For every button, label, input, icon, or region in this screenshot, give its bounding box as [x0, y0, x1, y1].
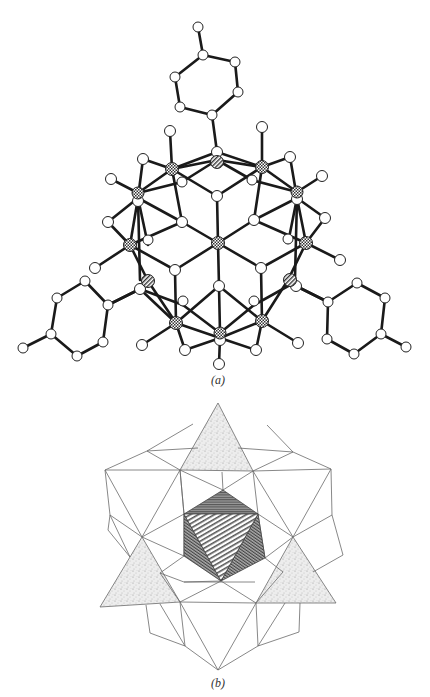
- caption-panel-b: (b): [198, 676, 238, 691]
- molecular-structure-figure: [0, 0, 430, 697]
- central-octahedron: [184, 490, 265, 581]
- atoms: [18, 22, 411, 370]
- caption-panel-a: (a): [198, 373, 238, 388]
- panel-b-polyhedral: [100, 403, 343, 670]
- panel-a-ball-and-stick: [18, 22, 411, 370]
